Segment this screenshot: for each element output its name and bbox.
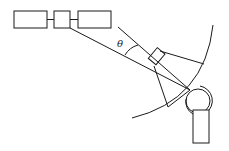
cone-upper-line — [160, 51, 204, 64]
middle-box — [54, 11, 70, 28]
cone-lower-line — [154, 66, 168, 107]
right-box — [78, 11, 111, 28]
theta-label: θ — [117, 38, 123, 49]
left-box — [14, 11, 47, 28]
angle-arc — [125, 45, 138, 55]
base-block — [193, 110, 209, 143]
diagram-canvas: θ — [0, 0, 229, 151]
sample-circle — [186, 89, 210, 113]
